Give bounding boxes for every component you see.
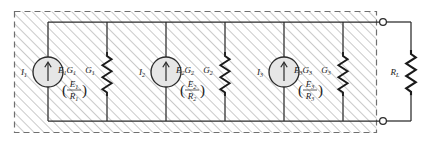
stage-3-paren-open: ( [298, 82, 303, 99]
terminal-top [380, 19, 387, 26]
load-branch: RL [386, 22, 415, 121]
load-resistor-label: RL [390, 67, 401, 78]
stage-1-paren-open: ( [62, 82, 67, 99]
stage-2-paren-open: ( [180, 82, 185, 99]
load-resistor-icon [406, 50, 416, 96]
stage-1-paren-close: ) [82, 82, 87, 99]
stage-2-paren-close: ) [200, 82, 205, 99]
terminal-bottom [380, 118, 387, 125]
terminals [380, 19, 387, 125]
stage-3-paren-close: ) [318, 82, 323, 99]
circuit-diagram-canvas: I1 E1G1 ( E1 R1 ) G1 I2 E2G2 ( E2 [0, 0, 426, 144]
